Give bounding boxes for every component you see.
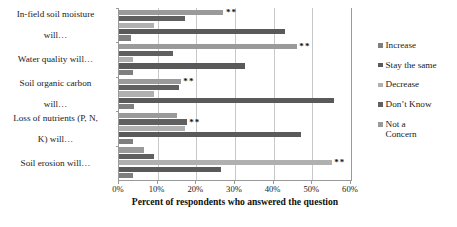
legend-item[interactable]: Increase <box>378 40 457 50</box>
category-label: In-field soil moisturewill… <box>0 8 116 42</box>
legend-label: Increase <box>386 40 417 50</box>
bar-row <box>119 35 351 40</box>
x-tick-label: 10% <box>149 184 165 194</box>
bar[interactable] <box>119 29 285 34</box>
bar-row <box>119 57 351 62</box>
bar-group: ** <box>119 42 351 76</box>
bar[interactable] <box>119 132 301 137</box>
legend-item[interactable]: Not aConcern <box>378 119 457 139</box>
bar[interactable] <box>119 98 334 103</box>
bar[interactable] <box>119 91 154 96</box>
legend-item[interactable]: Stay the same <box>378 60 457 70</box>
bar-group: ** <box>119 146 351 180</box>
bar-row <box>119 51 351 56</box>
bar-row <box>119 139 351 144</box>
bar[interactable] <box>119 154 154 159</box>
bar[interactable] <box>119 70 133 75</box>
bar[interactable] <box>119 119 187 124</box>
bar[interactable] <box>119 51 173 56</box>
legend-item[interactable]: Decrease <box>378 79 457 89</box>
legend-swatch-icon <box>378 83 383 88</box>
chart-legend: IncreaseStay the sameDecreaseDon’t KnowN… <box>378 40 457 149</box>
category-label-text: Soil erosion will… <box>0 158 111 169</box>
legend-label: Don’t Know <box>386 99 432 109</box>
legend-swatch-icon <box>378 43 383 48</box>
bar[interactable] <box>119 173 133 178</box>
bar-row <box>119 104 351 109</box>
legend-swatch-icon <box>378 102 383 107</box>
bar[interactable] <box>119 57 133 62</box>
category-label: Loss of nutrients (P, N,K) will… <box>0 111 116 145</box>
bar[interactable] <box>119 147 144 152</box>
bar[interactable] <box>119 23 154 28</box>
x-tick-label: 0% <box>112 184 123 194</box>
legend-item[interactable]: Don’t Know <box>378 99 457 109</box>
bar-row <box>119 113 351 118</box>
bar[interactable] <box>119 10 223 15</box>
bar-row <box>119 154 351 159</box>
legend-label: Not aConcern <box>386 119 417 139</box>
category-label: Soil organic carbonwill… <box>0 77 116 111</box>
bar-chart: In-field soil moisturewill…Water quality… <box>0 0 457 227</box>
bar[interactable] <box>119 139 133 144</box>
bar[interactable] <box>119 79 181 84</box>
x-tick-label: 30% <box>226 184 242 194</box>
bar-group: ** <box>119 111 351 145</box>
bar-row <box>119 98 351 103</box>
bar[interactable] <box>119 126 185 131</box>
bar-row <box>119 167 351 172</box>
bar-row <box>119 173 351 178</box>
bar[interactable] <box>119 104 134 109</box>
bar[interactable] <box>119 16 185 21</box>
legend-label: Decrease <box>386 79 420 89</box>
bar-row <box>119 70 351 75</box>
bar-row <box>119 29 351 34</box>
x-axis-title: Percent of respondents who answered the … <box>60 196 410 207</box>
category-label: Soil erosion will… <box>0 146 116 180</box>
category-label: Water quality will… <box>0 42 116 76</box>
bar-group: ** <box>119 77 351 111</box>
x-tick-label: 40% <box>265 184 281 194</box>
category-label-text: Loss of nutrients (P, N,K) will… <box>0 113 111 145</box>
bar[interactable] <box>119 167 221 172</box>
category-axis: In-field soil moisturewill…Water quality… <box>0 8 116 180</box>
bar-row <box>119 85 351 90</box>
x-tick-label: 60% <box>342 184 358 194</box>
bar-row: ** <box>119 160 351 165</box>
bar[interactable] <box>119 85 179 90</box>
bar-group: ** <box>119 8 351 42</box>
bar-row: ** <box>119 119 351 124</box>
bar-row <box>119 147 351 152</box>
bar-row <box>119 23 351 28</box>
bar[interactable] <box>119 35 131 40</box>
category-label-text: In-field soil moisturewill… <box>0 9 111 41</box>
x-axis-ticks: 0%10%20%30%40%50%60% <box>118 181 350 193</box>
legend-swatch-icon <box>378 63 383 68</box>
category-label-text: Water quality will… <box>0 54 111 65</box>
bar-row <box>119 132 351 137</box>
category-label-text: Soil organic carbonwill… <box>0 78 111 110</box>
bar-row: ** <box>119 10 351 15</box>
bar-row: ** <box>119 44 351 49</box>
bar[interactable] <box>119 113 177 118</box>
bar[interactable] <box>119 44 297 49</box>
bar-row <box>119 63 351 68</box>
bar-row <box>119 16 351 21</box>
legend-swatch-icon <box>378 122 383 127</box>
bar-row: ** <box>119 79 351 84</box>
bar-row <box>119 126 351 131</box>
x-tick-label: 20% <box>187 184 203 194</box>
bar-row <box>119 91 351 96</box>
bar[interactable] <box>119 160 332 165</box>
plot-area: ********** <box>118 8 352 181</box>
legend-label: Stay the same <box>386 60 437 70</box>
bar[interactable] <box>119 63 245 68</box>
x-tick-label: 50% <box>303 184 319 194</box>
